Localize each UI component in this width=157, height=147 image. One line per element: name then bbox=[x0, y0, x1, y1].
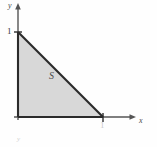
scan-bleedthrough-artifact: y bbox=[17, 136, 20, 143]
x-axis-label: x bbox=[139, 117, 143, 125]
x-axis-tick-label-1: 1 bbox=[100, 121, 105, 130]
figure-graphics bbox=[0, 0, 157, 147]
y-axis-label: y bbox=[8, 2, 12, 10]
figure-canvas: y x 1 1 S y bbox=[0, 0, 157, 147]
y-axis-arrow-icon bbox=[15, 3, 21, 10]
y-axis-tick-label-1: 1 bbox=[7, 27, 12, 36]
region-label-S: S bbox=[49, 71, 54, 81]
x-axis-arrow-icon bbox=[130, 114, 137, 120]
